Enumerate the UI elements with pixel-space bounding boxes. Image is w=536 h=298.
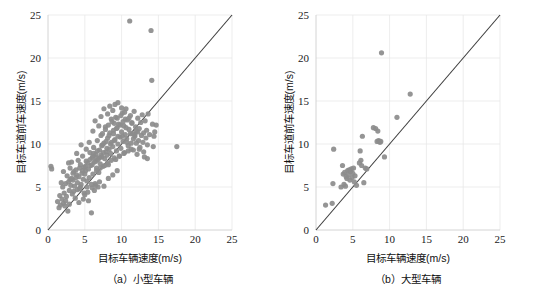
x-tick-label: 15 (421, 233, 433, 245)
scatter-point (394, 115, 399, 120)
scatter-point (107, 104, 112, 109)
scatter-point (129, 147, 134, 152)
x-tick-label: 5 (82, 233, 88, 245)
panel-caption: （b）大型车辆 (375, 273, 441, 285)
scatter-points (323, 50, 413, 207)
scatter-point (96, 123, 101, 128)
chart-panel-b: 05101520250510152025目标车辆速度(m/s)目标车道前车速度(… (268, 0, 536, 298)
y-tick-label: 20 (298, 52, 310, 64)
scatter-point (145, 142, 150, 147)
y-tick-labels: 0510152025 (298, 9, 310, 236)
scatter-point (151, 144, 156, 149)
panel-caption: （a）小型车辆 (107, 273, 173, 285)
scatter-point (104, 146, 109, 151)
scatter-point (79, 142, 84, 147)
scatter-point (66, 160, 71, 165)
scatter-plot-b: 05101520250510152025目标车辆速度(m/s)目标车道前车速度(… (268, 0, 536, 298)
scatter-point (152, 129, 157, 134)
scatter-point (379, 50, 384, 55)
scatter-point (343, 184, 348, 189)
scatter-point (141, 149, 146, 154)
reference-line-y-equals-x (316, 15, 500, 230)
x-tick-label: 25 (227, 233, 239, 245)
scatter-point (106, 176, 111, 181)
scatter-point (360, 134, 365, 139)
y-tick-label: 0 (304, 224, 310, 236)
scatter-point (108, 151, 113, 156)
scatter-point (101, 184, 106, 189)
scatter-point (120, 134, 125, 139)
scatter-point (93, 118, 98, 123)
scatter-point (126, 116, 131, 121)
scatter-point (140, 112, 145, 117)
y-tick-label: 10 (298, 138, 310, 150)
scatter-point (97, 179, 102, 184)
scatter-point (98, 165, 103, 170)
scatter-point (375, 129, 380, 134)
y-tick-label: 10 (30, 138, 42, 150)
scatter-point (330, 201, 335, 206)
scatter-point (358, 148, 363, 153)
scatter-point (145, 156, 150, 161)
scatter-point (95, 184, 100, 189)
scatter-point (364, 166, 369, 171)
scatter-point (154, 122, 159, 127)
scatter-point (114, 148, 119, 153)
scatter-point (340, 163, 345, 168)
x-tick-label: 5 (350, 233, 356, 245)
scatter-point (361, 180, 366, 185)
scatter-point (87, 140, 92, 145)
scatter-point (129, 120, 134, 125)
scatter-point (76, 200, 81, 205)
scatter-point (98, 153, 103, 158)
scatter-point (140, 140, 145, 145)
scatter-point (148, 28, 153, 33)
scatter-point (146, 111, 151, 116)
scatter-point (104, 139, 109, 144)
scatter-point (135, 129, 140, 134)
figure-container: 05101520250510152025目标车辆速度(m/s)目标车道前车速度(… (0, 0, 536, 298)
scatter-point (98, 114, 103, 119)
y-tick-label: 25 (298, 9, 310, 21)
scatter-point (382, 154, 387, 159)
y-tick-label: 5 (36, 181, 42, 193)
x-tick-label: 20 (458, 233, 470, 245)
scatter-point (65, 208, 70, 213)
scatter-point (135, 116, 140, 121)
scatter-point (101, 106, 106, 111)
scatter-point (86, 198, 91, 203)
scatter-point (331, 147, 336, 152)
y-axis-title: 目标车道前车速度(m/s) (15, 71, 27, 175)
scatter-point (112, 121, 117, 126)
scatter-point (95, 138, 100, 143)
x-tick-labels: 0510152025 (45, 233, 238, 245)
x-tick-label: 10 (116, 233, 128, 245)
scatter-point (358, 158, 363, 163)
scatter-point (83, 164, 88, 169)
y-tick-label: 15 (298, 95, 310, 107)
scatter-point (59, 180, 64, 185)
scatter-point (127, 18, 132, 23)
scatter-point (352, 173, 357, 178)
y-axis-title: 目标车道前车速度(m/s) (283, 71, 295, 175)
scatter-point (123, 125, 128, 130)
scatter-point (105, 111, 110, 116)
scatter-point (115, 100, 120, 105)
scatter-point (103, 127, 108, 132)
scatter-point (67, 177, 72, 182)
scatter-point (132, 109, 137, 114)
scatter-point (134, 141, 139, 146)
x-axis-title: 目标车辆速度(m/s) (366, 252, 450, 264)
scatter-point (90, 129, 95, 134)
scatter-point (118, 113, 123, 118)
scatter-point (149, 78, 154, 83)
scatter-point (128, 131, 133, 136)
chart-panel-a: 05101520250510152025目标车辆速度(m/s)目标车道前车速度(… (0, 0, 268, 298)
scatter-point (67, 202, 72, 207)
y-tick-label: 0 (36, 224, 42, 236)
scatter-point (323, 202, 328, 207)
scatter-point (115, 168, 120, 173)
scatter-point (94, 155, 99, 160)
scatter-point (119, 105, 124, 110)
scatter-point (330, 181, 335, 186)
